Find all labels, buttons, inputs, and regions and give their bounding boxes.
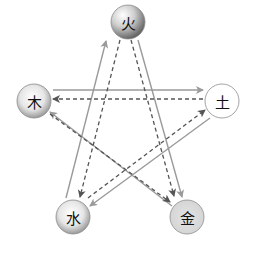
node-earth-label: 土: [205, 84, 239, 118]
node-water-label: 水: [56, 200, 90, 234]
arrow-fire-to-metal: [131, 40, 174, 196]
five-elements-diagram: 火 木 土 水 金: [0, 0, 258, 258]
edge-group: [50, 40, 210, 206]
arrow-fire-to-metal: [138, 40, 182, 197]
arrow-earth-to-water: [90, 118, 210, 206]
node-fire-label: 火: [111, 5, 145, 39]
node-metal-label: 金: [170, 200, 204, 234]
node-group: [17, 5, 239, 234]
node-wood-label: 木: [17, 84, 51, 118]
arrow-water-to-fire: [66, 41, 106, 198]
